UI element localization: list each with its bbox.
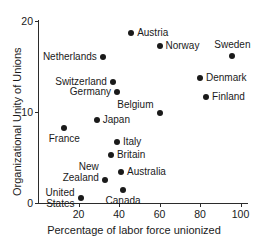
data-point-label: France bbox=[49, 134, 80, 145]
y-tick-mark bbox=[35, 21, 39, 22]
data-point-marker bbox=[197, 75, 203, 81]
data-point-label: Denmark bbox=[206, 73, 247, 84]
data-point-label: Australia bbox=[127, 167, 166, 178]
x-tick-label: 100 bbox=[232, 209, 250, 220]
data-point-marker bbox=[114, 139, 120, 145]
x-tick-mark bbox=[79, 203, 80, 207]
x-tick-label: 40 bbox=[113, 209, 125, 220]
data-point-marker bbox=[108, 152, 114, 158]
data-point-label: Finland bbox=[212, 92, 245, 103]
x-tick-label: 60 bbox=[154, 209, 166, 220]
y-tick-label: 20 bbox=[0, 16, 33, 27]
data-point-label: Belgium bbox=[117, 100, 153, 111]
data-point-label: Britain bbox=[117, 150, 145, 161]
data-point-label: Sweden bbox=[214, 39, 250, 50]
data-point-marker bbox=[114, 89, 120, 95]
scatter-plot-figure: 20406080100 01020 AustriaNorwaySwedenNet… bbox=[0, 0, 268, 246]
data-point-marker bbox=[229, 53, 235, 59]
data-point-marker bbox=[100, 54, 106, 60]
data-point-marker bbox=[102, 177, 108, 183]
data-point-marker bbox=[157, 43, 163, 49]
plot-area: 20406080100 01020 AustriaNorwaySwedenNet… bbox=[0, 0, 268, 246]
y-tick-mark bbox=[35, 203, 39, 204]
data-point-marker bbox=[61, 125, 67, 131]
data-point-marker bbox=[118, 169, 124, 175]
data-point-marker bbox=[94, 117, 100, 123]
data-point-marker bbox=[78, 195, 84, 201]
data-point-label: Canada bbox=[106, 196, 141, 207]
x-tick-mark bbox=[160, 203, 161, 207]
data-point-marker bbox=[120, 187, 126, 193]
data-point-label: Netherlands bbox=[43, 52, 97, 63]
data-point-marker bbox=[203, 94, 209, 100]
y-axis-title: Organizational Unity of Unions bbox=[12, 47, 23, 196]
x-tick-mark bbox=[200, 203, 201, 207]
data-point-label: NewZealand bbox=[63, 162, 99, 183]
y-tick-mark bbox=[35, 112, 39, 113]
data-point-label: Italy bbox=[123, 137, 141, 148]
data-point-marker bbox=[157, 110, 163, 116]
x-axis-title: Percentage of labor force unionized bbox=[0, 225, 268, 236]
data-point-label: Japan bbox=[103, 115, 130, 126]
data-point-label: Austria bbox=[137, 28, 168, 39]
data-point-label: UnitedStates bbox=[46, 188, 75, 209]
data-point-marker bbox=[128, 30, 134, 36]
x-tick-mark bbox=[241, 203, 242, 207]
data-point-label: Norway bbox=[166, 40, 200, 51]
data-point-marker bbox=[110, 79, 116, 85]
y-tick-label: 0 bbox=[0, 198, 33, 209]
x-tick-label: 80 bbox=[194, 209, 206, 220]
data-point-label: Germany bbox=[70, 87, 111, 98]
x-tick-label: 20 bbox=[73, 209, 85, 220]
